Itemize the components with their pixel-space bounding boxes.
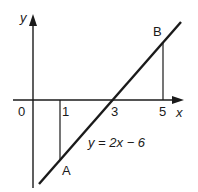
point-label-A: A <box>62 163 71 178</box>
equation-label: y = 2x − 6 <box>87 135 146 150</box>
point-label-B: B <box>153 24 162 39</box>
y-axis-label: y <box>19 10 28 25</box>
tick-label-0: 0 <box>18 104 25 119</box>
tick-label-1: 1 <box>62 104 69 119</box>
x-axis-label: x <box>175 105 183 120</box>
tick-label-5: 5 <box>159 104 166 119</box>
x-axis-arrow-icon <box>172 96 184 104</box>
tick-label-3: 3 <box>111 104 118 119</box>
graph: y x 0 1 3 5 y = 2x − 6 A B <box>0 0 198 192</box>
y-axis-arrow-icon <box>29 14 37 26</box>
